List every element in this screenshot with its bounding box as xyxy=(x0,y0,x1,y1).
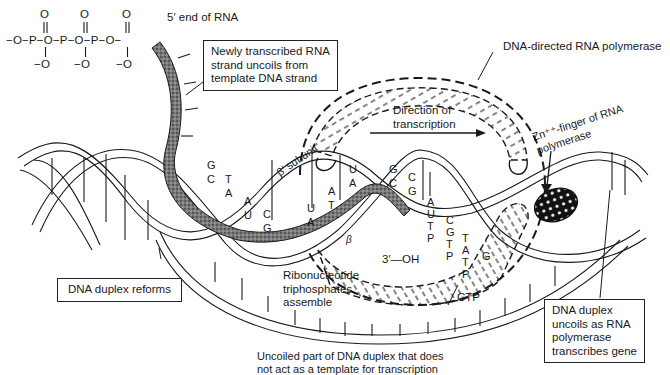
base-pair-8-bottom: C xyxy=(389,178,397,189)
phosphate-top-o-2: O xyxy=(80,8,89,20)
base-pair-8-top: G xyxy=(389,164,398,175)
direction-line-2: transcription xyxy=(393,118,456,132)
uncoiled-line-2: not act as a template for transcription xyxy=(257,363,444,375)
uncoils-line-2: uncoils as RNA xyxy=(552,318,637,332)
phosphate-bottom-o-3: −O xyxy=(116,58,132,70)
incoming-nucleotide-4: G xyxy=(482,251,491,262)
label-five-prime-end: 5′ end of RNA xyxy=(167,11,238,25)
base-pair-1-bottom: C xyxy=(207,174,215,185)
label-beta-subunit: β xyxy=(346,233,352,247)
callout-line: template DNA strand xyxy=(211,72,330,86)
label-ctp: CTP xyxy=(457,291,480,305)
ribo-line-1: Ribonucleotide xyxy=(283,269,359,283)
phosphate-top-o-3: O xyxy=(122,8,131,20)
base-pair-rungs xyxy=(52,150,625,240)
phosphate-top-o-1: O xyxy=(40,8,49,20)
nt-letter: U xyxy=(427,208,435,220)
uncoils-line-1: DNA duplex xyxy=(552,304,637,318)
base-pair-4-top: C xyxy=(263,209,271,220)
nt-letter: T xyxy=(462,232,469,244)
uncoiled-line-1: Uncoiled part of DNA duplex that does xyxy=(257,350,444,363)
callout-line: strand uncoils from xyxy=(211,59,330,73)
callout-newly-transcribed-rna: Newly transcribed RNA strand uncoils fro… xyxy=(203,40,338,91)
base-pair-7-bottom: A xyxy=(349,178,356,189)
direction-arrowhead xyxy=(476,129,486,137)
nt-letter: T xyxy=(446,238,455,250)
nt-letter: P xyxy=(427,232,435,244)
ribo-line-2: triphosphates xyxy=(283,283,359,297)
label-direction-of-transcription: Direction of transcription xyxy=(393,104,456,131)
nt-letter: P xyxy=(462,268,469,280)
uncoils-line-3: polymerase xyxy=(552,331,637,345)
base-pair-7-top: U xyxy=(349,164,357,175)
base-pair-3-top: A xyxy=(244,196,251,207)
nt-letter: A xyxy=(427,196,435,208)
incoming-nucleotide-1: A U T P xyxy=(427,196,435,244)
label-ribonucleotide-triphosphates: Ribonucleotide triphosphates assemble xyxy=(283,269,359,310)
base-pair-5-top: U xyxy=(307,203,315,214)
zn-finger xyxy=(530,182,582,227)
callout-line: Newly transcribed RNA xyxy=(211,45,330,59)
nt-letter: A xyxy=(462,244,469,256)
base-pair-6-bottom: T xyxy=(328,200,335,211)
phosphate-bottom-o-2: −O xyxy=(74,58,90,70)
base-pair-5-bottom: A xyxy=(307,217,314,228)
base-pair-4-bottom: G xyxy=(263,223,272,234)
incoming-nucleotide-2: C G T P xyxy=(446,214,455,262)
base-pair-9-top: C xyxy=(408,172,416,183)
nt-letter: G xyxy=(446,226,455,238)
uncoils-line-4: transcribes gene xyxy=(552,345,637,359)
label-3prime-oh: 3′—OH xyxy=(382,253,419,267)
nt-letter: P xyxy=(446,250,455,262)
label-rna-polymerase: DNA-directed RNA polymerase xyxy=(503,40,662,54)
base-pair-9-bottom: G xyxy=(408,186,417,197)
direction-line-1: Direction of xyxy=(393,104,456,118)
base-pair-6-top: A xyxy=(328,186,335,197)
base-pair-1-top: G xyxy=(207,160,216,171)
base-pair-2-bottom: A xyxy=(225,188,232,199)
base-pair-3-bottom: U xyxy=(244,210,252,221)
phosphate-bottom-o-1: −O xyxy=(34,58,50,70)
ribo-line-3: assemble xyxy=(283,296,359,310)
label-uncoiled-part: Uncoiled part of DNA duplex that does no… xyxy=(257,350,444,375)
phosphate-main-chain: −O−P−O−P−O−P−O− xyxy=(6,34,122,46)
base-pair-2-top: T xyxy=(225,174,232,185)
incoming-nucleotide-3: T A T P xyxy=(462,232,469,280)
nt-letter: T xyxy=(462,256,469,268)
callout-dna-duplex-uncoils: DNA duplex uncoils as RNA polymerase tra… xyxy=(544,299,645,363)
nt-letter: C xyxy=(446,214,455,226)
nt-letter: T xyxy=(427,220,435,232)
callout-dna-duplex-reforms: DNA duplex reforms xyxy=(57,278,182,302)
